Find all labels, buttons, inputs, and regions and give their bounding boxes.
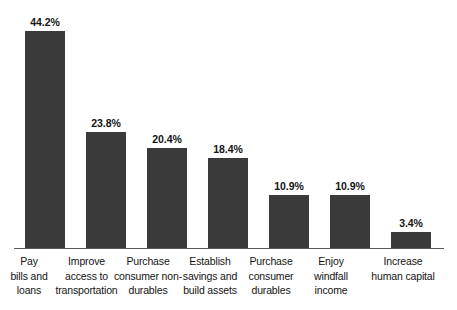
bar-group[interactable]: 23.8% xyxy=(86,0,126,249)
category-label-line: income xyxy=(287,283,375,298)
bar-value-label: 10.9% xyxy=(258,181,320,192)
bar-value-label: 18.4% xyxy=(197,144,259,155)
bar-chart: 44.2% 23.8% 20.4% 18.4% 10.9% 10.9% xyxy=(0,0,457,310)
bar-rect[interactable] xyxy=(330,195,370,249)
bar-group[interactable]: 18.4% xyxy=(208,0,248,249)
bar-rect[interactable] xyxy=(147,148,187,249)
bar-group[interactable]: 10.9% xyxy=(269,0,309,249)
bar-rect[interactable] xyxy=(269,195,309,249)
bar-group[interactable]: 44.2% xyxy=(25,0,65,249)
category-label-line: Increase xyxy=(353,254,453,269)
bar-rect[interactable] xyxy=(86,132,126,249)
bar-value-label: 10.9% xyxy=(319,181,381,192)
plot-area: 44.2% 23.8% 20.4% 18.4% 10.9% 10.9% xyxy=(0,0,457,249)
bar-value-label: 23.8% xyxy=(75,118,137,129)
category-axis-labels: Pay bills and loans Improve access to tr… xyxy=(0,254,457,310)
bar-value-label: 44.2% xyxy=(14,17,76,28)
x-axis-line xyxy=(14,248,444,249)
category-label-line: human capital xyxy=(353,269,453,284)
bar-value-label: 3.4% xyxy=(380,218,442,229)
bar-rect[interactable] xyxy=(25,31,65,249)
bar-group[interactable]: 3.4% xyxy=(391,0,431,249)
bar-group[interactable]: 10.9% xyxy=(330,0,370,249)
bar-value-label: 20.4% xyxy=(136,134,198,145)
bar-group[interactable]: 20.4% xyxy=(147,0,187,249)
category-label: Increase human capital xyxy=(353,254,453,283)
bar-rect[interactable] xyxy=(391,232,431,249)
bar-rect[interactable] xyxy=(208,158,248,249)
